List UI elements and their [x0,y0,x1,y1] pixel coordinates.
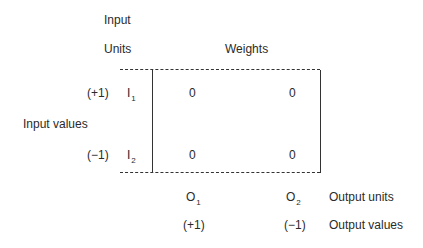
input-units-header-line2: Units [104,42,131,56]
weight-2-1: 0 [189,148,196,162]
matrix-bottom-dashed-line [120,172,320,173]
output-value-2: (−1) [284,218,306,232]
weight-1-1: 0 [189,86,196,100]
input-unit-2: I2 [127,148,136,164]
input-units-header-line1: Input [104,13,131,27]
input-value-2: (−1) [87,148,109,162]
matrix-top-dashed-line [120,69,320,70]
input-unit-1: I1 [127,86,136,102]
output-units-label: Output units [329,190,394,204]
output-value-1: (+1) [183,218,205,232]
matrix-right-line [320,70,321,173]
output-unit-2: O2 [286,190,301,206]
weight-2-2: 0 [289,148,296,162]
weights-header: Weights [225,42,268,56]
input-values-label: Input values [23,117,88,131]
matrix-left-line [152,70,153,173]
output-unit-1: O1 [186,190,201,206]
input-value-1: (+1) [87,86,109,100]
output-values-label: Output values [329,218,403,232]
weight-1-2: 0 [289,86,296,100]
